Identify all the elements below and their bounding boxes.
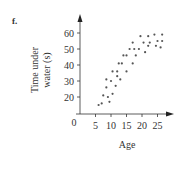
data-point <box>132 62 134 64</box>
data-point <box>118 62 120 64</box>
data-point <box>153 34 155 36</box>
data-point <box>160 46 162 48</box>
data-point <box>139 35 141 37</box>
data-point <box>102 94 104 96</box>
data-point <box>125 70 127 72</box>
data-point <box>161 40 163 42</box>
data-point <box>161 34 163 36</box>
data-point <box>107 96 109 98</box>
data-point <box>115 85 117 87</box>
data-point <box>132 42 134 44</box>
x-ticks: 510152025 <box>93 114 163 131</box>
data-point <box>149 42 151 44</box>
data-point <box>122 54 124 56</box>
data-point <box>121 62 123 64</box>
y-axis-label: Time under water (s) <box>29 46 53 93</box>
data-points <box>98 34 164 107</box>
y-axis-label-line2: water (s) <box>41 52 53 87</box>
data-point <box>135 54 137 56</box>
y-axis-label-line1: Time under <box>29 46 40 93</box>
data-point <box>142 42 144 44</box>
data-point <box>144 51 146 53</box>
x-tick-label: 25 <box>153 120 163 131</box>
data-point <box>111 70 113 72</box>
x-tick-label: 15 <box>122 120 132 131</box>
data-point <box>155 45 157 47</box>
y-tick-label: 30 <box>64 76 74 87</box>
data-point <box>116 75 118 77</box>
y-tick-label: 20 <box>64 92 74 103</box>
data-point <box>108 101 110 103</box>
data-point <box>111 93 113 95</box>
data-point <box>101 102 103 104</box>
data-point <box>98 104 100 106</box>
data-point <box>110 80 112 82</box>
data-point <box>138 48 140 50</box>
figure-label: f. <box>12 16 17 26</box>
y-ticks: 2030405060 <box>64 28 80 103</box>
data-point <box>105 86 107 88</box>
y-axis-arrow-icon <box>78 14 83 22</box>
data-point <box>116 70 118 72</box>
data-point <box>119 78 121 80</box>
x-tick-label: 10 <box>106 120 116 131</box>
origin-label: 0 <box>72 117 77 128</box>
data-point <box>147 45 149 47</box>
x-tick-label: 5 <box>93 120 98 131</box>
data-point <box>129 48 131 50</box>
y-tick-label: 40 <box>64 60 74 71</box>
x-axis-label: Age <box>119 139 136 150</box>
data-point <box>156 40 158 42</box>
data-point <box>133 48 135 50</box>
data-point <box>147 35 149 37</box>
x-tick-label: 20 <box>137 120 147 131</box>
data-point <box>105 78 107 80</box>
y-tick-label: 60 <box>64 28 74 39</box>
x-axis-arrow-icon <box>166 112 174 117</box>
y-tick-label: 50 <box>64 44 74 55</box>
data-point <box>125 54 127 56</box>
scatter-chart: f. Time under water (s) 2030405060 51015… <box>0 0 180 172</box>
